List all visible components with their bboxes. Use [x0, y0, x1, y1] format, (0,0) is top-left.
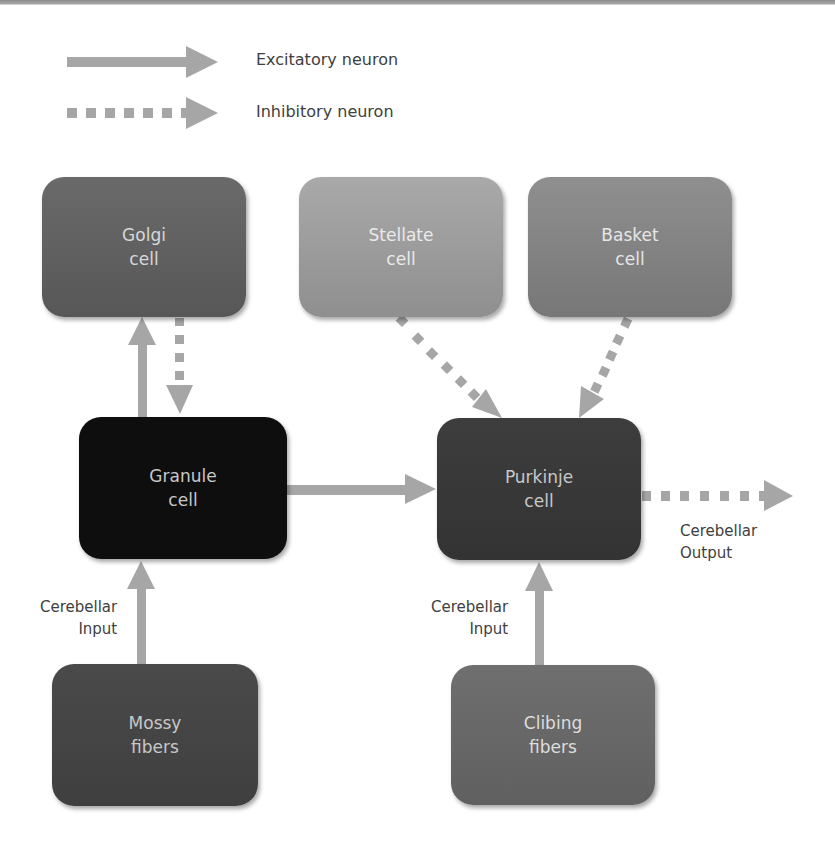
climbing-fibers-label-line1: Clibing — [524, 711, 582, 735]
climbing-fibers-label-line2: fibers — [529, 735, 577, 759]
purkinje-cell-node: Purkinje cell — [437, 418, 641, 560]
granule-cell-label-line2: cell — [168, 488, 197, 512]
cerebellar-input-right-line2: Input — [431, 618, 508, 640]
cerebellar-input-left-line2: Input — [40, 618, 117, 640]
golgi-cell-label-line2: cell — [129, 247, 158, 271]
arrow-stellate-to-purkinje — [396, 314, 502, 418]
cerebellar-input-left-label: Cerebellar Input — [40, 596, 117, 640]
stellate-cell-node: Stellate cell — [299, 177, 503, 317]
cerebellar-output-line2: Output — [680, 542, 757, 564]
cerebellar-output-line1: Cerebellar — [680, 520, 757, 542]
purkinje-cell-label-line1: Purkinje — [505, 465, 573, 489]
basket-cell-node: Basket cell — [528, 177, 732, 317]
purkinje-cell-label-line2: cell — [524, 489, 553, 513]
stellate-cell-label-line1: Stellate — [369, 223, 434, 247]
legend-inhibitory-label: Inhibitory neuron — [256, 102, 394, 121]
legend-excitatory-arrow-icon — [67, 46, 218, 78]
granule-cell-node: Granule cell — [79, 417, 287, 559]
arrow-mossy-to-granule — [127, 561, 155, 665]
legend-inhibitory-arrow-icon — [67, 97, 218, 129]
arrow-basket-to-purkinje — [579, 317, 632, 418]
mossy-fibers-label-line1: Mossy — [129, 711, 182, 735]
arrow-climbing-to-purkinje — [525, 562, 553, 665]
arrow-granule-to-golgi — [128, 317, 156, 418]
arrow-golgi-to-granule — [166, 318, 193, 414]
climbing-fibers-node: Clibing fibers — [451, 665, 655, 805]
golgi-cell-label-line1: Golgi — [122, 223, 166, 247]
stellate-cell-label-line2: cell — [386, 247, 415, 271]
cerebellar-output-label: Cerebellar Output — [680, 520, 757, 564]
granule-cell-label-line1: Granule — [149, 464, 216, 488]
basket-cell-label-line2: cell — [615, 247, 644, 271]
cerebellar-input-left-line1: Cerebellar — [40, 596, 117, 618]
cerebellar-input-right-line1: Cerebellar — [431, 596, 508, 618]
basket-cell-label-line1: Basket — [601, 223, 658, 247]
golgi-cell-node: Golgi cell — [42, 177, 246, 317]
legend-excitatory-label: Excitatory neuron — [256, 50, 398, 69]
mossy-fibers-label-line2: fibers — [131, 735, 179, 759]
arrow-purkinje-to-output — [642, 480, 793, 511]
arrow-granule-to-purkinje — [287, 474, 436, 504]
cerebellar-input-right-label: Cerebellar Input — [431, 596, 508, 640]
mossy-fibers-node: Mossy fibers — [52, 664, 258, 806]
